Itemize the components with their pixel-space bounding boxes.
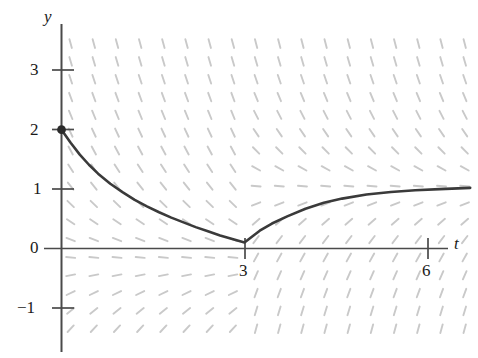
slope-field-dash (160, 325, 166, 332)
slope-field-dash (162, 75, 165, 84)
slope-field-dash (92, 129, 96, 137)
slope-field-dash (393, 129, 398, 136)
slope-field-dash (113, 238, 121, 241)
slope-field-dash (347, 289, 350, 297)
slope-field-dash (159, 274, 168, 276)
slope-field-dash (113, 308, 120, 314)
slope-field-dash (182, 257, 191, 258)
slope-field-dash (232, 57, 235, 66)
slope-field-dash (414, 186, 423, 187)
x-tick-label-3: 3 (239, 262, 248, 279)
slope-field-dash (206, 308, 213, 314)
slope-field-dash (207, 183, 213, 190)
slope-field-dash (206, 291, 214, 295)
slope-field-dash (255, 57, 258, 66)
slope-field-dash (392, 236, 397, 243)
slope-field-dash (394, 57, 397, 66)
slope-field-dash (462, 147, 468, 153)
slope-field-dash (185, 75, 188, 84)
slope-field-dash (347, 253, 351, 261)
slope-field-dash (440, 75, 443, 84)
slope-field-dash (162, 111, 165, 119)
slope-field-dash (346, 236, 351, 243)
slope-field-dash (278, 57, 281, 66)
slope-field-dash (440, 289, 443, 297)
slope-field-dash (255, 307, 258, 316)
slope-field-dash (323, 253, 327, 261)
slope-field-dash (137, 183, 143, 190)
slope-field-dash (277, 236, 282, 243)
slope-field-dash (299, 147, 305, 153)
slope-field-dash (162, 39, 164, 48)
slope-field-dash (299, 166, 307, 170)
slope-field-dash (278, 289, 281, 297)
slope-field-dash (278, 75, 281, 84)
slope-field-dash (300, 129, 305, 136)
slope-field-dash (252, 202, 260, 205)
slope-field-dash (346, 147, 352, 153)
slope-field-dash (368, 186, 377, 187)
plot-canvas (0, 0, 478, 358)
slope-field-dash (417, 75, 420, 84)
slope-field-dash (254, 111, 258, 119)
slope-field-dash (345, 219, 352, 225)
slope-field-figure: y t 3 2 1 0 −1 3 6 (0, 0, 478, 358)
slope-field-dash (324, 93, 327, 101)
slope-field-dash (92, 93, 95, 101)
slope-field-dash (254, 253, 258, 261)
slope-field-dash (278, 39, 280, 48)
slope-field-dash (253, 236, 258, 243)
slope-field-dash (89, 257, 98, 258)
slope-field-dash (368, 202, 376, 205)
slope-field-dash (91, 183, 97, 190)
slope-field-dash (417, 39, 419, 48)
slope-field-dash (393, 93, 396, 101)
slope-field-dash (370, 271, 374, 279)
slope-field-dash (277, 253, 281, 261)
slope-field-dash (115, 93, 118, 101)
slope-field-dash (254, 129, 259, 136)
slope-field-dash (69, 39, 71, 48)
slope-field-dash (460, 186, 469, 187)
slope-field-dash (370, 289, 373, 297)
slope-field-dash (161, 183, 167, 190)
slope-field-dash (93, 39, 95, 48)
slope-field-dash (461, 202, 469, 205)
slope-field-dash (391, 166, 399, 170)
slope-field-dash (138, 147, 142, 155)
slope-field-dash (207, 165, 212, 173)
slope-field-dash (185, 111, 188, 119)
slope-field-dash (183, 291, 191, 295)
slope-field-dash (138, 129, 142, 137)
slope-field-dash (391, 202, 399, 205)
slope-field-dash (113, 257, 122, 258)
slope-field-dash (277, 129, 282, 136)
slope-field-dash (228, 274, 237, 276)
slope-field-dash (161, 147, 165, 155)
slope-field-dash (89, 274, 98, 276)
slope-field-dash (255, 324, 257, 333)
slope-field-dash (209, 39, 211, 48)
slope-field-dash (439, 129, 444, 136)
slope-field-dash (136, 257, 145, 258)
slope-field-dash (440, 93, 443, 101)
slope-field-dash (184, 183, 190, 190)
slope-field-dash (159, 257, 168, 258)
slope-field-dash (347, 75, 350, 84)
slope-field-dash (393, 111, 397, 119)
slope-field-dash (417, 307, 420, 316)
slope-field-dash (347, 93, 350, 101)
slope-field-dash (324, 39, 326, 48)
slope-field-dash (463, 271, 467, 279)
slope-field-dash (69, 147, 73, 155)
y-tick-label-minus-1: −1 (17, 299, 35, 316)
slope-field-dash (159, 238, 167, 241)
slope-field-dash (369, 147, 375, 153)
slope-field-dash (417, 289, 420, 297)
slope-field-dash (462, 236, 467, 243)
slope-field-dash (161, 165, 166, 173)
slope-field-dash (229, 219, 236, 224)
slope-field-dash (348, 39, 350, 48)
slope-field-dash (368, 166, 376, 170)
slope-field-dash (370, 253, 374, 261)
